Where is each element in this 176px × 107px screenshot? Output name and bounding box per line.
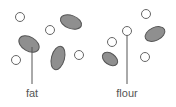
fat-particle xyxy=(58,12,83,32)
flour-particle xyxy=(123,27,132,36)
right-panel xyxy=(100,10,167,85)
flour-label: flour xyxy=(116,87,137,99)
flour-particle xyxy=(12,56,21,65)
flour-particle xyxy=(75,51,84,60)
flour-particle xyxy=(46,26,55,35)
flour-particle xyxy=(141,53,150,62)
fat-particle xyxy=(100,50,120,69)
left-panel xyxy=(12,12,84,84)
fat-particle xyxy=(16,32,42,55)
flour-particle xyxy=(16,13,25,22)
fat-particle xyxy=(49,45,68,72)
fat-label: fat xyxy=(26,87,38,99)
fat-particle xyxy=(143,24,168,45)
flour-particle xyxy=(108,38,117,47)
flour-particle xyxy=(142,10,151,19)
